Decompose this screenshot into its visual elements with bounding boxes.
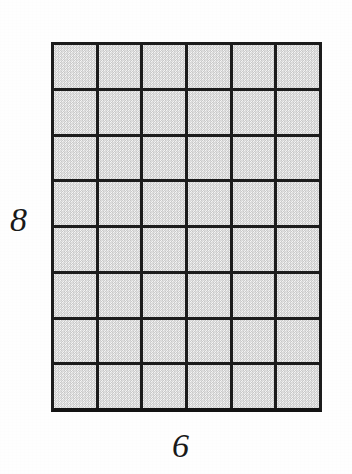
grid-cell [188,91,230,134]
grid-cell [277,91,319,134]
grid-array [51,42,322,412]
grid-cell [54,182,96,225]
grid-cell [143,365,185,408]
grid-cell [188,320,230,363]
grid-cell [277,274,319,317]
grid-cell [99,365,141,408]
grid-cell [54,45,96,88]
grid-cell [54,320,96,363]
grid-cell [233,365,275,408]
grid-cell [54,137,96,180]
grid-cell [277,228,319,271]
grid-cell [99,228,141,271]
grid-cell [277,45,319,88]
grid-cell [277,182,319,225]
grid-cell [188,274,230,317]
grid-cell [143,274,185,317]
grid-cell [54,274,96,317]
grid-cell [143,182,185,225]
grid-cell [233,45,275,88]
grid-cell [99,274,141,317]
grid-cell [143,45,185,88]
height-dimension-label: 8 [10,203,27,237]
grid-cell [233,320,275,363]
grid-cell [277,137,319,180]
grid-cell [188,365,230,408]
grid-cell [277,320,319,363]
grid-cell [99,320,141,363]
grid-cell [99,182,141,225]
grid-cell [188,45,230,88]
width-dimension-label: 6 [172,429,189,463]
grid-cell [233,274,275,317]
grid-cell [233,228,275,271]
grid-cell [143,91,185,134]
grid-cell [188,228,230,271]
grid-cell [233,137,275,180]
grid-cell [143,320,185,363]
grid-cell [54,91,96,134]
grid-cell [143,228,185,271]
grid-cell [99,137,141,180]
grid-cell [54,365,96,408]
grid-cell [188,137,230,180]
grid-cell [277,365,319,408]
grid-cell [99,91,141,134]
grid-cell [188,182,230,225]
grid-cell [143,137,185,180]
grid-cell [233,91,275,134]
grid-cell [99,45,141,88]
figure-canvas: 8 6 [0,0,352,474]
grid-cell [54,228,96,271]
grid-cell [233,182,275,225]
